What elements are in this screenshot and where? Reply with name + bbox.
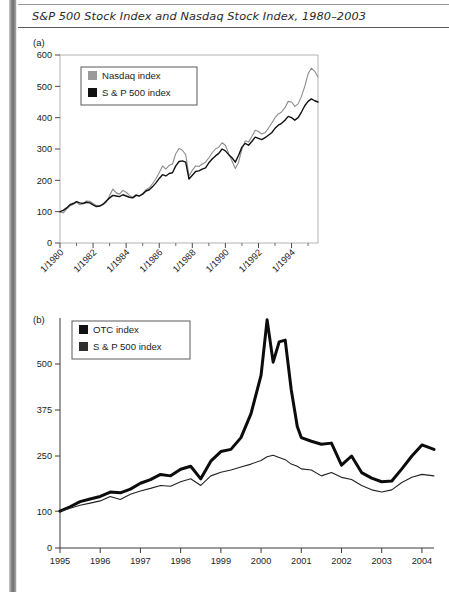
x-tick-label: 1/1990 — [204, 247, 231, 274]
panel-b-x-axis: 1995199619971998199920002001200220032004 — [50, 548, 432, 566]
y-tick-label: 500 — [37, 82, 52, 92]
y-tick-label: 600 — [37, 50, 52, 60]
y-tick-label: 200 — [37, 176, 52, 186]
panel-a-x-axis: 1/19801/19821/19841/19861/19881/19901/19… — [38, 243, 308, 274]
panel-a-y-axis: 0100200300400500600 — [37, 50, 60, 248]
y-tick-label: 0 — [47, 543, 52, 553]
panel-b: 0100250375500 19951996199719981999200020… — [0, 300, 449, 592]
x-tick-label: 1/1986 — [138, 247, 165, 274]
legend-swatch-sp500 — [88, 88, 97, 97]
x-tick-label: 1996 — [90, 556, 110, 566]
x-tick-label: 1997 — [130, 556, 150, 566]
x-tick-label: 1999 — [211, 556, 231, 566]
x-tick-label: 1995 — [50, 556, 70, 566]
panel-a-legend: Nasdaq indexS & P 500 index — [81, 67, 197, 105]
x-tick-label: 1/1980 — [38, 247, 65, 274]
x-tick-label: 1/1982 — [72, 247, 99, 274]
x-tick-label: 2000 — [251, 556, 271, 566]
legend-label: S & P 500 index — [102, 87, 171, 98]
panel-a-plot: 0100200300400500600 1/19801/19821/19841/… — [0, 30, 449, 280]
panel-b-plot: 0100250375500 19951996199719981999200020… — [0, 300, 449, 592]
y-tick-label: 0 — [47, 238, 52, 248]
legend-swatch-otc — [79, 325, 88, 334]
series-line-s-p-500-index — [60, 455, 434, 511]
figure-page: S&P 500 Stock Index and Nasdaq Stock Ind… — [0, 0, 449, 592]
page-rule-top — [18, 4, 449, 5]
y-tick-label: 100 — [37, 207, 52, 217]
legend-label: S & P 500 index — [93, 341, 162, 352]
x-tick-label: 2001 — [291, 556, 311, 566]
panel-a: 0100200300400500600 1/19801/19821/19841/… — [0, 30, 449, 280]
x-tick-label: 1/1994 — [270, 247, 297, 274]
legend-label: Nasdaq index — [102, 70, 161, 81]
x-tick-label: 2003 — [371, 556, 391, 566]
legend-swatch-nasdaq — [88, 71, 97, 80]
panel-b-legend: OTC indexS & P 500 index — [72, 321, 190, 359]
legend-swatch-sp500 — [79, 342, 88, 351]
y-tick-label: 500 — [37, 359, 52, 369]
x-tick-label: 1/1988 — [171, 247, 198, 274]
x-tick-label: 2004 — [412, 556, 432, 566]
y-tick-label: 400 — [37, 113, 52, 123]
y-tick-label: 250 — [37, 451, 52, 461]
x-tick-label: 1/1992 — [237, 247, 264, 274]
x-tick-label: 1998 — [170, 556, 190, 566]
panel-b-y-axis: 0100250375500 — [37, 359, 60, 553]
title-underline-rule — [18, 27, 449, 28]
y-tick-label: 375 — [37, 405, 52, 415]
x-tick-label: 1/1984 — [105, 247, 132, 274]
legend-label: OTC index — [93, 324, 139, 335]
x-tick-label: 2002 — [331, 556, 351, 566]
y-tick-label: 300 — [37, 144, 52, 154]
figure-title: S&P 500 Stock Index and Nasdaq Stock Ind… — [32, 10, 432, 23]
y-tick-label: 100 — [37, 507, 52, 517]
